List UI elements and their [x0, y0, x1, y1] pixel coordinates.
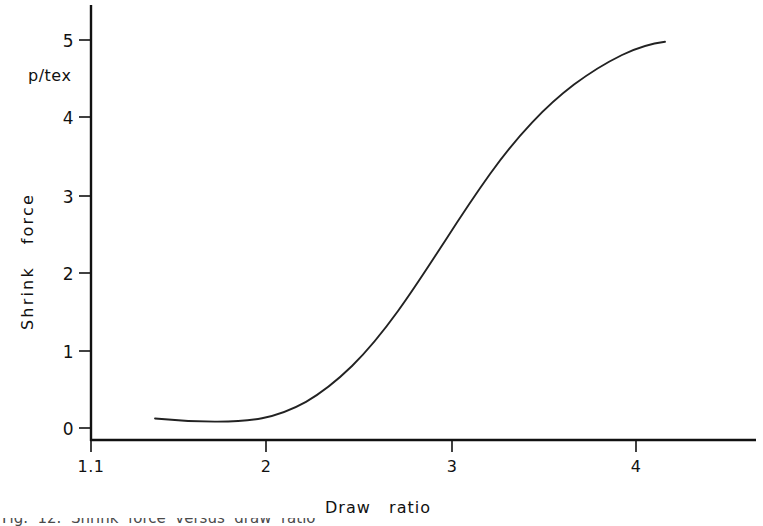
y-axis-unit-label: p/tex: [28, 66, 71, 85]
y-axis-title: Shrink force: [18, 193, 37, 330]
chart-plot-area: [0, 0, 763, 526]
y-tick-label-3: 3: [48, 187, 74, 207]
y-tick-label-2: 2: [48, 264, 74, 284]
x-tick-label-3: 3: [429, 457, 475, 476]
y-axis-ticks: [79, 40, 90, 428]
x-tick-label-1-1: 1.1: [68, 457, 114, 476]
figure-container: 0 1 2 3 4 5 1.1 2 3 4 p/tex Shrink force…: [0, 0, 763, 526]
figure-caption-text: Fig. 12. Shrink force versus draw ratio: [2, 518, 316, 526]
x-axis-ticks: [91, 441, 636, 452]
y-tick-label-1: 1: [48, 342, 74, 362]
x-axis-title: Draw ratio: [325, 498, 431, 517]
figure-caption-strip: Fig. 12. Shrink force versus draw ratio: [0, 518, 763, 526]
y-tick-label-0: 0: [48, 419, 74, 439]
x-tick-label-4: 4: [613, 457, 659, 476]
y-tick-label-5: 5: [48, 31, 74, 51]
y-tick-label-4: 4: [48, 108, 74, 128]
data-curve-shrink-force: [155, 42, 665, 422]
x-tick-label-2: 2: [243, 457, 289, 476]
